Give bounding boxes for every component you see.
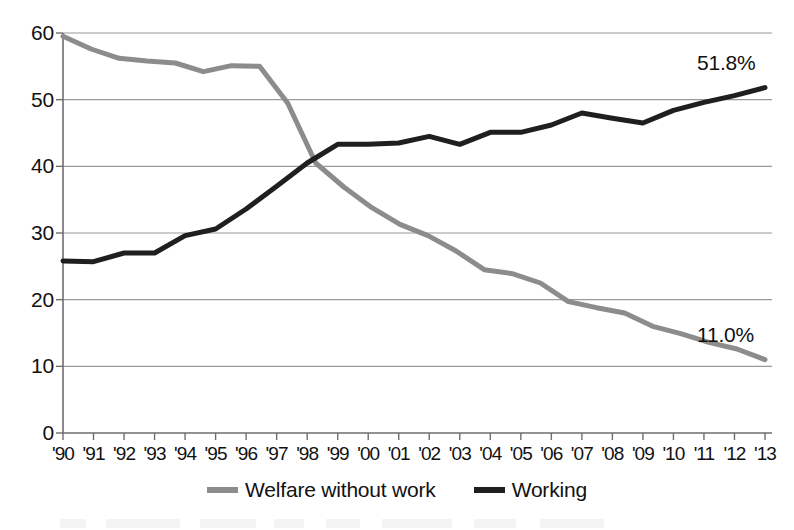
y-axis-tick-label: 30 bbox=[8, 222, 54, 243]
x-axis-labels: '90'91'92'93'94'95'96'97'98'99'00'01'02'… bbox=[0, 443, 794, 473]
chart-legend: Welfare without work Working bbox=[0, 478, 794, 501]
y-axis-tick-label: 0 bbox=[8, 422, 54, 443]
cropped-caption-sliver bbox=[60, 519, 660, 528]
legend-label-welfare-without-work: Welfare without work bbox=[245, 478, 436, 501]
series-line-working bbox=[63, 88, 765, 262]
y-axis-tick-label: 50 bbox=[8, 89, 54, 110]
series-end-label-welfare-without-work: 11.0% bbox=[697, 324, 754, 346]
series-line-welfare-without-work bbox=[63, 36, 765, 359]
legend-item-welfare-without-work: Welfare without work bbox=[207, 478, 436, 501]
gridlines bbox=[56, 33, 772, 433]
line-chart: 6050403020100 '90'91'92'93'94'95'96'97'9… bbox=[0, 0, 794, 530]
legend-line-swatch-icon bbox=[207, 487, 238, 493]
legend-label-working: Working bbox=[512, 478, 587, 501]
series-end-label-working: 51.8% bbox=[697, 52, 756, 74]
y-axis-tick-label: 40 bbox=[8, 155, 54, 176]
y-axis-tick-label: 10 bbox=[8, 355, 54, 376]
x-axis-tick-label: '13 bbox=[743, 443, 787, 465]
legend-line-swatch-icon bbox=[474, 487, 505, 493]
y-axis-tick-label: 60 bbox=[8, 22, 54, 43]
y-axis-labels: 6050403020100 bbox=[0, 0, 54, 460]
x-axis-ticks bbox=[63, 433, 765, 440]
y-axis-tick-label: 20 bbox=[8, 289, 54, 310]
legend-item-working: Working bbox=[474, 478, 587, 501]
